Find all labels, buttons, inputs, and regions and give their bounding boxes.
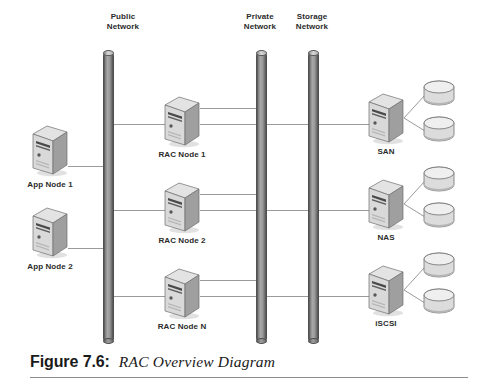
disk-icon-san-2 [422,116,456,144]
server-icon-san [366,93,406,145]
label-rac-node-1: RAC Node 1 [140,150,224,159]
label-rac-node-2: RAC Node 2 [140,236,224,245]
server-icon-rac-node-1 [162,96,202,148]
server-icon-rac-node-n [162,268,202,320]
network-bus-private [256,52,267,342]
network-bus-public [103,52,114,342]
disk-icon-nas-2 [422,202,456,230]
figure-title: RAC Overview Diagram [119,353,275,371]
figure-number: Figure 7.6: [30,353,110,371]
server-icon-iscsi [366,265,406,317]
network-bus-storage [308,52,319,342]
disk-icon-iscsi-2 [422,288,456,316]
disk-icon-iscsi-1 [422,252,456,280]
server-icon-nas [366,179,406,231]
label-rac-node-n: RAC Node N [140,322,224,331]
disk-icon-nas-1 [422,166,456,194]
label-san: SAN [348,147,424,156]
server-icon-app-node-1 [30,125,70,177]
rac-overview-diagram: Public Network Private Network Storage N… [0,0,486,345]
label-app-node-2: App Node 2 [8,262,92,271]
figure-caption: Figure 7.6: RAC Overview Diagram [0,345,486,386]
server-icon-app-node-2 [30,207,70,259]
label-nas: NAS [348,233,424,242]
label-app-node-1: App Node 1 [8,180,92,189]
server-icon-rac-node-2 [162,182,202,234]
disk-connector-wires [0,0,486,345]
disk-icon-san-1 [422,80,456,108]
label-iscsi: iSCSI [348,319,424,328]
caption-rule [30,377,468,378]
